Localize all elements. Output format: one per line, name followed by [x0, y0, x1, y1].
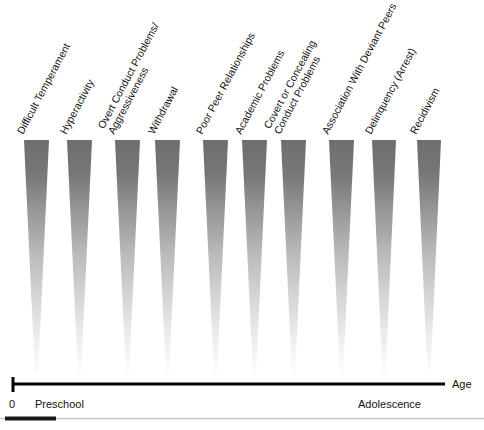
- wedge-withdrawal: [155, 140, 180, 373]
- wedge-association-with-deviant-peers: [329, 140, 354, 373]
- wedge-recidivism: [417, 140, 441, 373]
- wedge-difficult-temperament: [24, 140, 49, 373]
- wedge-label-covert-or-concealing-conduct-problems: Covert or ConcealingConduct Problems: [261, 38, 328, 136]
- axis-age-label: Age: [452, 378, 472, 390]
- wedge-label-withdrawal: Withdrawal: [145, 84, 180, 135]
- wedge-label-line: Overt Conduct Problems/: [95, 21, 161, 131]
- axis-origin-label: 0: [9, 398, 15, 410]
- diagram-canvas: Difficult TemperamentHyperactivityOvert …: [0, 0, 484, 430]
- wedge-label-association-with-deviant-peers: Association With Deviant Peers: [319, 1, 398, 136]
- wedge-label-line: Hyperactivity: [57, 77, 96, 136]
- wedge-label-line: Withdrawal: [145, 84, 180, 135]
- wedge-delinquency-arrest: [372, 140, 396, 373]
- wedge-label-recidivism: Recidivism: [407, 85, 442, 136]
- axis-stage-preschool: Preschool: [35, 398, 84, 410]
- developmental-progression-diagram: Difficult TemperamentHyperactivityOvert …: [0, 0, 484, 430]
- wedge-academic-problems: [242, 140, 267, 373]
- wedge-poor-peer-relationships: [203, 140, 228, 373]
- wedge-label-line: Association With Deviant Peers: [319, 1, 398, 136]
- wedge-label-line: Recidivism: [407, 85, 442, 136]
- axis-stage-adolescence: Adolescence: [358, 398, 421, 410]
- wedge-overt-conduct-problems-aggressiveness: [115, 140, 140, 373]
- age-axis: Age 0 Preschool Adolescence: [9, 377, 472, 410]
- wedge-label-hyperactivity: Hyperactivity: [57, 77, 96, 136]
- wedge-hyperactivity: [67, 140, 92, 373]
- wedge-group: [24, 140, 441, 373]
- wedge-covert-or-concealing-conduct-problems: [281, 140, 306, 373]
- wedge-label-group: Difficult TemperamentHyperactivityOvert …: [14, 1, 442, 136]
